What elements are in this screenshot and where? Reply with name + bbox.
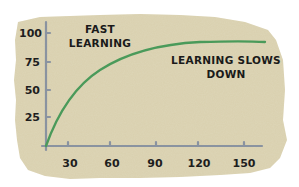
y-tick-50: 50 [25, 84, 41, 97]
x-tick-120: 120 [188, 157, 211, 170]
x-tick-90: 90 [147, 157, 163, 170]
x-tick-60: 60 [104, 157, 120, 170]
x-tick-30: 30 [62, 157, 78, 170]
y-tick-75: 75 [25, 56, 40, 69]
svg-text:LEARNING: LEARNING [69, 37, 132, 49]
learning-curve-chart: 100 75 50 25 30 60 90 120 150 FAST LEARN… [0, 0, 299, 187]
y-tick-100: 100 [19, 27, 42, 40]
x-tick-150: 150 [233, 157, 256, 170]
svg-text:DOWN: DOWN [206, 68, 245, 80]
paper-background [14, 14, 287, 179]
y-tick-25: 25 [25, 111, 40, 124]
svg-text:LEARNING SLOWS: LEARNING SLOWS [171, 54, 281, 66]
svg-text:FAST: FAST [85, 23, 116, 35]
